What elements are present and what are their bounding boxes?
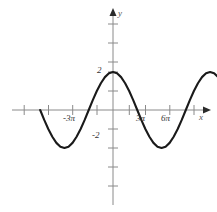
y-tick-label-2: 2 xyxy=(97,66,102,75)
cosine-graph-figure: -3π 3π 6π 2 -2 x y xyxy=(0,0,217,212)
plot-canvas xyxy=(0,0,217,212)
x-tick-label-neg-3pi: -3π xyxy=(63,114,75,123)
x-axis-arrow-icon xyxy=(203,107,211,114)
y-tick-label-neg-2: -2 xyxy=(92,131,100,140)
y-axis-label: y xyxy=(118,9,122,18)
y-axis-arrow-icon xyxy=(110,8,117,16)
x-tick-label-3pi: 3π xyxy=(136,114,145,123)
x-tick-label-6pi: 6π xyxy=(161,114,170,123)
x-axis-label: x xyxy=(199,113,203,122)
